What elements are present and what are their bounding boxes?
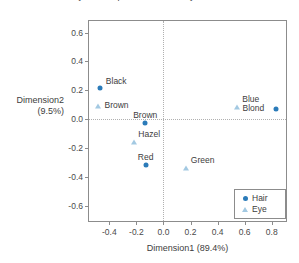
data-point-label-blue-eye: Blue — [242, 95, 259, 104]
data-point-label-red-hair: Red — [138, 153, 154, 162]
x-axis-tick — [272, 221, 273, 225]
data-point-brown-eye[interactable] — [95, 104, 101, 109]
y-axis-tick — [85, 177, 89, 178]
data-point-label-green-eye: Green — [191, 156, 215, 165]
y-axis-tick — [85, 206, 89, 207]
y-axis-tick-label: 0.4 — [71, 56, 83, 66]
triangle-marker-icon — [240, 207, 250, 212]
data-point-label-black-hair: Black — [106, 77, 127, 86]
y-axis-tick — [85, 33, 89, 34]
y-axis-tick-label: 0.0 — [71, 114, 83, 124]
y-axis-tick-label: 0.6 — [71, 28, 83, 38]
y-axis-tick — [85, 90, 89, 91]
legend-label: Hair — [252, 194, 268, 203]
legend-item-hair[interactable]: Hair — [240, 193, 281, 204]
y-axis-title: Dimension2 (9.5%) — [2, 95, 64, 117]
y-axis-tick-label: -0.4 — [68, 172, 83, 182]
x-axis-tick-label: 0.6 — [239, 227, 251, 237]
data-point-green-eye[interactable] — [183, 166, 189, 171]
x-axis-tick — [109, 221, 110, 225]
data-point-blue-eye[interactable] — [234, 104, 240, 109]
x-axis-tick — [218, 221, 219, 225]
data-point-red-hair[interactable] — [143, 163, 148, 168]
circle-marker-icon — [240, 196, 250, 201]
x-axis-tick-label: 0.0 — [158, 227, 170, 237]
legend-item-eye[interactable]: Eye — [240, 204, 281, 215]
legend-label: Eye — [252, 205, 267, 214]
data-point-label-hazel-eye: Hazel — [138, 130, 160, 139]
scatter-plot-figure: Symmetric plot for Hair and Eye colour D… — [0, 0, 299, 263]
x-axis-tick-label: -0.2 — [129, 227, 144, 237]
data-point-label-blond-hair: Blond — [242, 104, 264, 113]
x-axis-tick-label: -0.4 — [102, 227, 117, 237]
data-point-brown-hair[interactable] — [143, 121, 148, 126]
x-axis-tick — [163, 221, 164, 225]
reference-line-horizontal — [89, 119, 286, 120]
x-axis-tick-label: 0.2 — [185, 227, 197, 237]
y-axis-tick — [85, 61, 89, 62]
data-point-blond-hair[interactable] — [274, 107, 279, 112]
reference-line-vertical — [163, 21, 164, 221]
chart-title: Symmetric plot for Hair and Eye colour — [0, 0, 299, 1]
x-axis-tick — [191, 221, 192, 225]
x-axis-tick — [245, 221, 246, 225]
chart-legend: HairEye — [234, 189, 286, 219]
x-axis-tick-label: 0.4 — [212, 227, 224, 237]
x-axis-title: Dimension1 (89.4%) — [88, 243, 287, 253]
x-axis-tick-label: 0.8 — [266, 227, 278, 237]
data-point-hazel-eye[interactable] — [131, 140, 137, 145]
y-axis-tick — [85, 119, 89, 120]
data-point-label-brown-hair: Brown — [133, 111, 157, 120]
y-axis-tick — [85, 148, 89, 149]
x-axis-tick — [136, 221, 137, 225]
y-axis-title-line2: (9.5%) — [2, 106, 64, 117]
data-point-label-brown-eye: Brown — [104, 101, 128, 110]
y-axis-title-line1: Dimension2 — [2, 95, 64, 106]
y-axis-tick-label: -0.2 — [68, 143, 83, 153]
y-axis-tick-label: 0.2 — [71, 85, 83, 95]
data-point-black-hair[interactable] — [97, 86, 102, 91]
y-axis-tick-label: -0.6 — [68, 201, 83, 211]
